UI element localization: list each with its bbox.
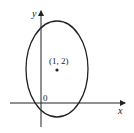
ellipse-diagram: (1, 2) 0 x y [0, 0, 134, 133]
y-axis-label: y [31, 8, 37, 19]
x-axis-label: x [117, 105, 123, 116]
center-point [55, 68, 58, 71]
origin-label: 0 [43, 93, 48, 103]
center-label: (1, 2) [49, 56, 69, 66]
